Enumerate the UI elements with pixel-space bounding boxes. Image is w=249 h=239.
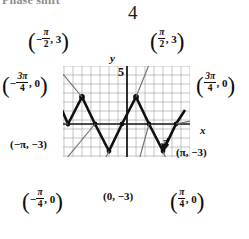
paren-open: ( — [22, 189, 30, 214]
x-axis-label: x — [200, 124, 206, 136]
y-axis-label: y — [110, 52, 115, 64]
sign: − — [10, 77, 16, 89]
point-zero-mid — [120, 122, 125, 127]
paren-open: ( — [150, 29, 158, 54]
sign: − — [30, 193, 36, 205]
label-trough-right: (π, −3) — [176, 147, 207, 158]
label-zero-right-inner: ( π 4 , 0) — [170, 188, 205, 213]
paren-open: ( — [170, 189, 178, 214]
paren-open: ( — [28, 29, 36, 54]
paren-open: ( — [2, 73, 10, 98]
figure-heading: Phase shift — [2, 0, 60, 8]
label-peak-right: ( π 2 , 3) — [150, 28, 185, 53]
label-zero-left-outer: (− 3π 4 , 0) — [2, 72, 48, 97]
sign: − — [36, 33, 42, 45]
fraction: π 2 — [42, 28, 49, 49]
label-zero-right-outer: ( 3π 4 , 0) — [196, 72, 235, 97]
label-peak-left: (− π 2 , 3) — [28, 28, 69, 53]
fraction: π 4 — [36, 188, 43, 209]
paren-close: ) — [177, 29, 185, 54]
figure-container: Phase shift 4 — [0, 0, 249, 239]
amplitude-value: 4 — [128, 2, 138, 24]
paren-close: ) — [55, 189, 63, 214]
label-zero-left-inner: (− π 4 , 0) — [22, 188, 63, 213]
paren-close: ) — [40, 73, 48, 98]
coordinate-plot — [63, 66, 190, 157]
fraction: π 4 — [178, 188, 185, 209]
x-tick-label: π — [163, 135, 169, 147]
paren-close: ) — [228, 73, 236, 98]
y-tick-label: 5 — [118, 65, 124, 80]
paren-close: ) — [197, 189, 205, 214]
fraction: 3π 4 — [204, 72, 216, 93]
label-trough-left: (−π, −3) — [10, 139, 47, 150]
paren-close: ) — [61, 29, 69, 54]
fraction: π 2 — [158, 28, 165, 49]
label-trough-center: (0, −3) — [103, 191, 133, 202]
paren-open: ( — [196, 73, 204, 98]
fraction: 3π 4 — [16, 72, 28, 93]
